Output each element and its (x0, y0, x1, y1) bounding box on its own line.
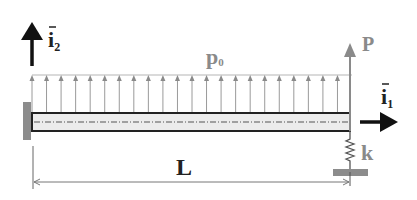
fixed-wall-support (23, 102, 31, 140)
i1-label: i1 (381, 84, 393, 111)
diagram-canvas: i2 p0 P i1 k L (0, 0, 417, 200)
spring-k-label: k (361, 140, 374, 165)
i1-axis-arrow-icon (360, 112, 398, 132)
spring-icon (346, 131, 354, 172)
beam (32, 113, 350, 131)
load-p0-label: p0 (206, 44, 224, 69)
i2-label: i2 (48, 27, 60, 54)
distributed-load (30, 75, 353, 112)
force-P-label: P (362, 33, 374, 55)
length-L-label: L (176, 154, 192, 180)
i2-axis-arrow-icon (21, 22, 43, 66)
beam-diagram: i2 p0 P i1 k L (0, 0, 417, 200)
